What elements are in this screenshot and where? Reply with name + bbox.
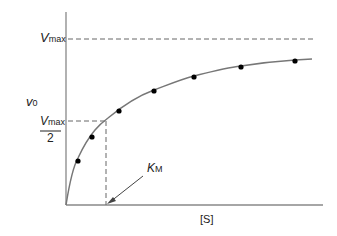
km-label: KM: [147, 161, 163, 175]
saturation-curve: [66, 59, 312, 205]
data-point: [191, 74, 196, 79]
data-point: [75, 158, 80, 163]
km-arrow: [110, 176, 143, 202]
half-vmax-denominator: 2: [47, 131, 54, 145]
y-axis-label: v0: [26, 94, 38, 109]
data-point: [238, 64, 243, 69]
data-point: [151, 88, 156, 93]
data-point: [116, 108, 121, 113]
data-points: [75, 58, 297, 163]
vmax-label: Vmax: [40, 30, 66, 45]
data-point: [292, 58, 297, 63]
x-axis-label: [S]: [200, 213, 213, 225]
data-point: [89, 134, 94, 139]
half-vmax-numerator: Vmax: [40, 114, 65, 128]
